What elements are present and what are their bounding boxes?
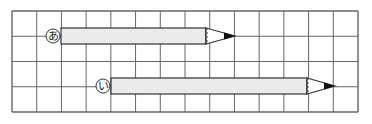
grid	[12, 11, 358, 112]
pencil-length-diagram: あい	[0, 0, 372, 124]
pencil-lead	[224, 33, 235, 40]
pencil-2: い	[96, 78, 335, 94]
pencil-body	[111, 78, 307, 94]
pencil-1: あ	[46, 28, 235, 44]
pencil-label: あ	[48, 30, 59, 43]
pencil-body	[61, 28, 206, 44]
pencil-label: い	[98, 80, 109, 93]
